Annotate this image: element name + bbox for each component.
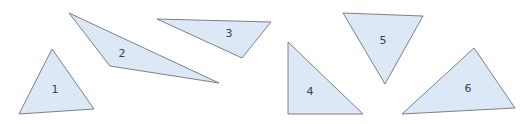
triangle-3: 3 — [157, 19, 271, 58]
triangle-3-shape — [157, 19, 271, 58]
triangle-4: 4 — [288, 42, 363, 114]
triangle-1-label: 1 — [52, 83, 59, 96]
triangles-diagram: 1 2 3 4 5 6 — [0, 0, 524, 124]
triangle-6-label: 6 — [465, 82, 472, 95]
triangle-6: 6 — [402, 48, 515, 114]
triangle-1-shape — [19, 49, 94, 114]
triangle-1: 1 — [19, 49, 94, 114]
triangle-4-label: 4 — [307, 85, 314, 98]
triangle-5: 5 — [343, 13, 423, 84]
triangle-4-shape — [288, 42, 363, 114]
diagram-svg: 1 2 3 4 5 6 — [0, 0, 524, 124]
triangle-3-label: 3 — [226, 27, 233, 40]
triangle-6-shape — [402, 48, 515, 114]
triangle-2-label: 2 — [119, 47, 126, 60]
triangle-5-label: 5 — [380, 34, 387, 47]
triangle-5-shape — [343, 13, 423, 84]
